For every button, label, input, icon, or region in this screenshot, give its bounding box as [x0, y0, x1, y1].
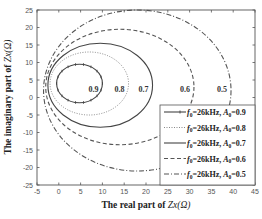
x-tick-label: -5 [34, 188, 40, 195]
curve-label: 0.5 [217, 85, 227, 94]
impedance-chart: 0.90.80.70.60.5 -5051015202530354045 252… [0, 0, 262, 219]
curve-labels-layer: 0.90.80.70.60.5 [88, 85, 227, 94]
x-tick-label: 35 [208, 188, 216, 195]
y-tick-label: -25 [23, 182, 33, 189]
legend: f0=26kHz, A0=0.9f0=26kHz, A0=0.8f0=26kHz… [160, 105, 255, 185]
y-axis-title: The imaginary part of Zx(Ω) [3, 39, 14, 154]
x-axis-title: The real part of Zx(Ω) [101, 200, 190, 211]
legend-item-label: f0=26kHz, A0=0.8 [187, 124, 246, 134]
legend-item-label: f0=26kHz, A0=0.9 [187, 108, 246, 118]
y-tick-label: -20 [23, 164, 33, 171]
y-tick-label: 0 [29, 94, 33, 101]
x-tick-label: 15 [120, 188, 128, 195]
legend-item-label: f0=26kHz, A0=0.6 [187, 155, 246, 165]
curve-a0-07 [48, 43, 153, 127]
curve-label: 0.9 [88, 85, 98, 94]
x-tick-label: 30 [186, 188, 194, 195]
y-tick-label: 25 [25, 7, 33, 14]
curve-label: 0.6 [180, 85, 190, 94]
y-tick-label: -15 [23, 147, 33, 154]
x-tick-label: 5 [79, 188, 83, 195]
y-tick-label: 5 [29, 77, 33, 84]
x-tick-label: 40 [229, 188, 237, 195]
y-tick-label: 10 [25, 59, 33, 66]
y-tick-label: 20 [25, 24, 33, 31]
x-tick-label: 10 [99, 188, 107, 195]
x-tick-label: 45 [251, 188, 259, 195]
curve-label: 0.7 [139, 85, 149, 94]
x-tick-label: 25 [164, 188, 172, 195]
y-tick-label: -10 [23, 129, 33, 136]
legend-item-label: f0=26kHz, A0=0.7 [187, 139, 246, 149]
legend-item-label: f0=26kHz, A0=0.5 [187, 170, 246, 180]
curve-label: 0.8 [115, 85, 125, 94]
x-tick-label: 20 [142, 188, 150, 195]
curve-a0-09 [57, 64, 103, 103]
x-tick-label: 0 [57, 188, 61, 195]
y-tick-label: 15 [25, 42, 33, 49]
y-tick-label: -5 [27, 112, 33, 119]
curve-a0-08 [50, 52, 128, 115]
